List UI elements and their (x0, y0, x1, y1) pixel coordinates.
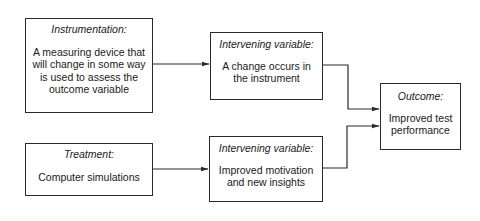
node-body: A measuring device that will change in s… (28, 46, 149, 96)
node-instrumentation: Instrumentation: A measuring device that… (25, 18, 153, 113)
flowchart-diagram: Instrumentation: A measuring device that… (0, 0, 480, 221)
node-line: A change occurs in (222, 60, 311, 73)
node-line: performance (389, 124, 453, 137)
node-intervening-variable-2: Intervening variable: Improved motivatio… (209, 136, 323, 202)
node-title: Intervening variable: (219, 38, 314, 51)
node-line: will change in some way (32, 58, 145, 71)
node-body: A change occurs in the instrument (218, 60, 315, 85)
node-title: Treatment: (64, 148, 114, 161)
node-title: Outcome: (398, 90, 444, 103)
node-line: Computer simulations (38, 171, 140, 184)
node-line: Improved motivation (219, 164, 314, 177)
node-outcome: Outcome: Improved test performance (380, 83, 461, 150)
node-line: is used to assess the (32, 71, 145, 84)
node-title: Intervening variable: (219, 142, 314, 155)
node-line: A measuring device that (32, 46, 145, 59)
node-line: the instrument (222, 72, 311, 85)
node-body: Computer simulations (34, 171, 144, 184)
node-body: Improved motivation and new insights (215, 164, 318, 189)
node-line: outcome variable (32, 83, 145, 96)
node-line: Improved test (389, 112, 453, 125)
node-line: and new insights (219, 176, 314, 189)
node-intervening-variable-1: Intervening variable: A change occurs in… (210, 32, 323, 100)
node-treatment: Treatment: Computer simulations (25, 143, 153, 196)
node-title: Instrumentation: (51, 23, 126, 36)
edge-intervening-1-to-outcome (323, 65, 379, 109)
node-body: Improved test performance (385, 112, 457, 137)
edge-intervening-2-to-outcome (323, 126, 379, 168)
